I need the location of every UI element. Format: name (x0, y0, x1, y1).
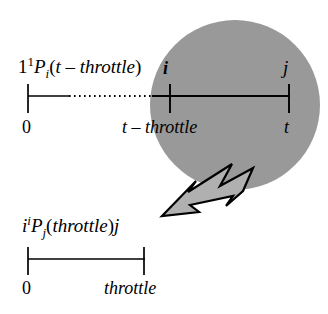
bottom-tick-label-throttle: throttle (104, 279, 156, 297)
top-tick-label-t: t (284, 118, 289, 136)
bottom-expression-symbol: P (31, 215, 43, 236)
bottom-expression-label: iiPj(throttle)j (22, 216, 119, 235)
top-tick-label-origin: 0 (22, 118, 31, 136)
top-expression-symbol: P (34, 56, 46, 77)
probability-timeline-diagram: 11Pi(t – throttle) i j 0 t – throttle t … (0, 0, 328, 314)
diagram-canvas (0, 0, 328, 314)
top-expression-close-paren: ) (135, 56, 141, 77)
top-node-end-label: j (283, 58, 288, 77)
bottom-expression-argument: throttle (52, 215, 107, 236)
top-expression-leading: 1 (18, 56, 28, 77)
top-tick-label-t-minus-throttle: t – throttle (122, 118, 197, 136)
magnifier-circle (150, 20, 320, 190)
top-node-start-label: i (163, 59, 168, 77)
top-expression-label: 11Pi(t – throttle) (18, 57, 141, 76)
bottom-node-end-label: j (114, 215, 119, 236)
top-expression-argument: t – throttle (55, 56, 135, 77)
bottom-tick-label-origin: 0 (22, 279, 31, 297)
